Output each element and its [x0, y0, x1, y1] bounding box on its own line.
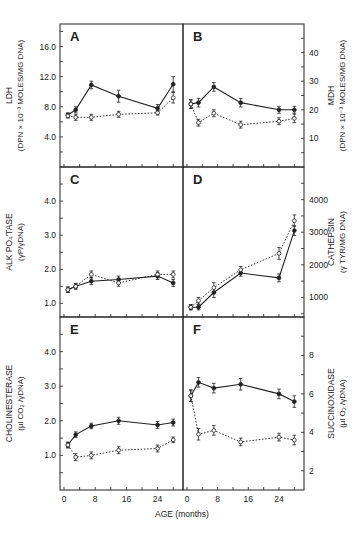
y-tick-label: 10 — [309, 133, 319, 143]
series-line-dotted — [191, 221, 295, 307]
data-point-open — [189, 305, 193, 309]
data-point-open — [89, 272, 93, 276]
y-axis-title: LDH — [4, 87, 14, 104]
y-axis-unit: (DPN × 10⁻³ MOLES/MG DNA) — [16, 39, 25, 151]
x-tick-label: 8 — [215, 494, 220, 504]
data-point-filled — [171, 421, 175, 425]
x-tick-label: 8 — [93, 494, 98, 504]
panel-label: E — [70, 322, 79, 337]
data-point-open — [292, 219, 296, 223]
data-point-filled — [117, 94, 121, 98]
data-point-filled — [292, 400, 296, 404]
data-point-filled — [292, 229, 296, 233]
data-point-open — [277, 119, 281, 123]
panel-f: 2468SUCCINOXIDASE(µl O₂ /γDNA)F — [183, 317, 347, 490]
y-tick-label: 4.0 — [44, 196, 56, 206]
data-point-filled — [89, 279, 93, 283]
y-tick-label: 6 — [309, 389, 314, 399]
x-tick-label: 16 — [122, 494, 132, 504]
data-point-open — [66, 114, 70, 118]
y-tick-label: 2 — [309, 466, 314, 476]
y-tick-label: 40 — [309, 48, 319, 58]
data-point-filled — [74, 433, 78, 437]
data-point-open — [239, 123, 243, 127]
y-tick-label: 3.0 — [44, 381, 56, 391]
y-tick-label: 20 — [309, 105, 319, 115]
data-point-open — [171, 438, 175, 442]
y-tick-label: 2.0 — [44, 264, 56, 274]
data-point-open — [66, 288, 70, 292]
y-axis-unit: (γP/γDNA) — [16, 223, 25, 261]
panel-b: 10203040MDH(DPN × 10⁻³ MOLES/MG DNA)B — [183, 24, 347, 167]
data-point-open — [156, 111, 160, 115]
data-point-filled — [89, 83, 93, 87]
x-tick-label: 24 — [274, 494, 284, 504]
y-axis-title: SUCCINOXIDASE — [326, 368, 336, 439]
figure: 4.08.012.016.0LDH(DPN × 10⁻³ MOLES/MG DN… — [0, 0, 358, 536]
panel-label: D — [193, 172, 202, 187]
data-point-open — [197, 299, 201, 303]
y-tick-label: 4.0 — [44, 132, 56, 142]
data-point-open — [66, 443, 70, 447]
y-axis-unit: (γ TYR/MG DNA) — [338, 211, 347, 273]
data-point-filled — [239, 382, 243, 386]
data-point-filled — [117, 419, 121, 423]
data-point-open — [212, 429, 216, 433]
x-tick-label: 0 — [185, 494, 190, 504]
data-point-filled — [156, 423, 160, 427]
data-point-open — [171, 272, 175, 276]
data-point-open — [197, 121, 201, 125]
y-tick-label: 4 — [309, 427, 314, 437]
data-point-filled — [74, 108, 78, 112]
data-point-filled — [156, 106, 160, 110]
panel-c: 1.02.03.04.0ALK PO₄'TASE(γP/γDNA)C — [4, 167, 183, 317]
data-point-filled — [212, 85, 216, 89]
data-point-open — [117, 448, 121, 452]
data-point-open — [74, 455, 78, 459]
data-point-open — [239, 268, 243, 272]
data-point-open — [156, 272, 160, 276]
y-tick-label: 30 — [309, 76, 319, 86]
y-tick-label: 16.0 — [39, 42, 56, 52]
data-point-open — [212, 111, 216, 115]
panel-label: F — [193, 322, 201, 337]
x-axis-title: AGE (months) — [155, 509, 209, 519]
y-tick-label: 1.0 — [44, 298, 56, 308]
panel-a: 4.08.012.016.0LDH(DPN × 10⁻³ MOLES/MG DN… — [4, 24, 183, 167]
panel-label: B — [193, 29, 202, 44]
data-point-filled — [277, 108, 281, 112]
data-point-open — [189, 102, 193, 106]
y-tick-label: 4000 — [309, 195, 328, 205]
y-axis-title: MDH — [326, 86, 336, 105]
data-point-filled — [89, 424, 93, 428]
data-point-open — [171, 96, 175, 100]
data-point-open — [197, 432, 201, 436]
y-axis-title: ALK PO₄'TASE — [4, 213, 14, 271]
data-point-filled — [197, 305, 201, 309]
data-point-open — [239, 440, 243, 444]
data-point-open — [89, 115, 93, 119]
data-point-open — [156, 447, 160, 451]
y-axis-unit: (DPN × 10⁻³ MOLES/MG DNA) — [338, 39, 347, 151]
x-tick-label: 0 — [62, 494, 67, 504]
data-point-open — [189, 394, 193, 398]
x-tick-label: 24 — [153, 494, 163, 504]
x-tick-label: 16 — [244, 494, 254, 504]
data-point-filled — [292, 108, 296, 112]
data-point-filled — [197, 101, 201, 105]
y-tick-label: 3.0 — [44, 230, 56, 240]
data-point-open — [74, 284, 78, 288]
y-axis-unit: (µl O₂ /γDNA) — [338, 379, 347, 428]
data-point-filled — [171, 281, 175, 285]
data-point-filled — [171, 82, 175, 86]
y-tick-label: 8 — [309, 350, 314, 360]
data-point-open — [292, 116, 296, 120]
panel-d: 1000200030004000CATHEPSIN(γ TYR/MG DNA)D — [183, 167, 347, 317]
data-point-open — [74, 115, 78, 119]
data-point-open — [89, 454, 93, 458]
y-tick-label: 4.0 — [44, 347, 56, 357]
y-axis-title: CHOLINESTERASE — [4, 364, 14, 442]
y-tick-label: 12.0 — [39, 72, 56, 82]
y-tick-label: 1.0 — [44, 450, 56, 460]
panel-e: 1.02.03.04.0CHOLINESTERASE(µl CO₂ /γDNA)… — [4, 317, 183, 490]
